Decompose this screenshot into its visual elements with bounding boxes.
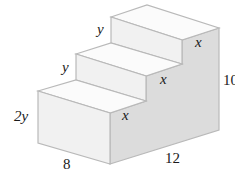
label-middle-step-height: y <box>60 59 69 75</box>
label-top-step-depth: x <box>194 34 202 50</box>
label-total-height: 10 <box>223 72 235 88</box>
label-middle-step-depth: x <box>159 71 167 87</box>
label-width: 8 <box>63 156 71 172</box>
label-top-step-height: y <box>95 21 104 37</box>
staircase-diagram: y y 2y x x x 10 8 12 <box>0 0 235 196</box>
label-bottom-step-depth: x <box>121 107 129 123</box>
label-length: 12 <box>165 150 180 166</box>
label-bottom-step-height: 2y <box>14 108 29 124</box>
